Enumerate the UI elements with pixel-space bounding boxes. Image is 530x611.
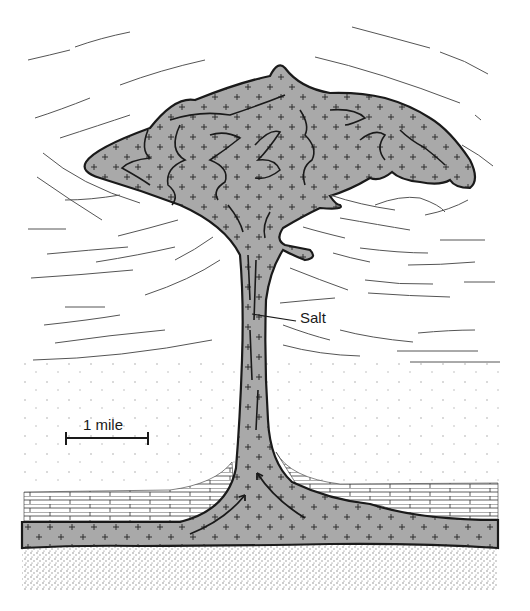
scale-label: 1 mile <box>83 416 123 433</box>
salt-label: Salt <box>300 309 326 326</box>
basement-layer <box>22 543 498 590</box>
salt-diapir-diagram <box>0 0 530 611</box>
